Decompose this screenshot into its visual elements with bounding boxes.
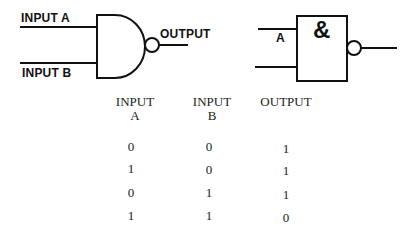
cell-output: 0 bbox=[266, 210, 306, 226]
cell-input-b: 0 bbox=[189, 162, 229, 178]
logic-diagrams: INPUT A INPUT B OUTPUT A & bbox=[0, 0, 413, 90]
input-b-label: INPUT B bbox=[22, 66, 71, 80]
cell-input-b: 1 bbox=[189, 208, 229, 224]
output-label: OUTPUT bbox=[160, 27, 211, 41]
header-text: B bbox=[187, 109, 237, 123]
header-text: OUTPUT bbox=[256, 95, 316, 109]
iec-input-a-label: A bbox=[276, 31, 285, 45]
cell-input-b: 0 bbox=[189, 139, 229, 155]
header-input-b: INPUT B bbox=[187, 95, 237, 123]
input-a-label: INPUT A bbox=[21, 11, 70, 25]
cell-input-a: 0 bbox=[111, 185, 151, 201]
cell-input-b: 1 bbox=[189, 185, 229, 201]
cell-output: 1 bbox=[266, 163, 306, 179]
cell-output: 1 bbox=[266, 187, 306, 203]
header-text: INPUT bbox=[110, 95, 160, 109]
header-text: A bbox=[110, 109, 160, 123]
cell-output: 1 bbox=[266, 141, 306, 157]
header-output: OUTPUT bbox=[256, 95, 316, 109]
header-text: INPUT bbox=[187, 95, 237, 109]
cell-input-a: 0 bbox=[111, 139, 151, 155]
cell-input-a: 1 bbox=[111, 161, 151, 177]
header-input-a: INPUT A bbox=[110, 95, 160, 123]
cell-input-a: 1 bbox=[111, 208, 151, 224]
ampersand-symbol: & bbox=[313, 16, 331, 44]
